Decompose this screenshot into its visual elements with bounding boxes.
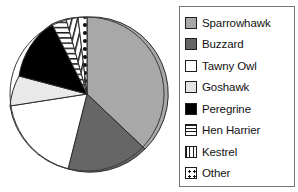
legend-swatch-hen-harrier-icon — [185, 124, 197, 136]
legend-label-tawny-owl: Tawny Owl — [202, 60, 257, 72]
legend-swatch-other-icon — [185, 167, 197, 179]
legend-swatch-peregrine-icon — [185, 103, 197, 115]
pie-chart-plot-area — [2, 6, 178, 186]
legend-label-other: Other — [202, 167, 230, 179]
legend-item-tawny-owl: Tawny Owl — [185, 55, 294, 77]
legend-item-goshawk: Goshawk — [185, 77, 294, 99]
legend-label-goshawk: Goshawk — [202, 81, 249, 93]
legend-label-kestrel: Kestrel — [202, 146, 237, 158]
legend-swatch-tawny-owl-icon — [185, 60, 197, 72]
legend-swatch-kestrel-icon — [185, 146, 197, 158]
legend-swatch-sparrowhawk-icon — [185, 17, 197, 29]
pie-chart-figure: Sparrowhawk Buzzard Tawny Owl Goshawk Pe… — [0, 0, 298, 192]
pie-slices — [10, 17, 168, 172]
legend-label-peregrine: Peregrine — [202, 103, 251, 115]
legend-swatch-buzzard-icon — [185, 38, 197, 50]
pie-chart-svg — [2, 6, 178, 186]
legend-label-hen-harrier: Hen Harrier — [202, 124, 260, 136]
legend-item-peregrine: Peregrine — [185, 98, 294, 120]
legend-swatch-goshawk-icon — [185, 81, 197, 93]
legend-item-hen-harrier: Hen Harrier — [185, 120, 294, 142]
legend-label-buzzard: Buzzard — [202, 38, 244, 50]
legend-item-other: Other — [185, 163, 294, 185]
chart-legend: Sparrowhawk Buzzard Tawny Owl Goshawk Pe… — [179, 6, 295, 187]
legend-label-sparrowhawk: Sparrowhawk — [202, 17, 271, 29]
legend-item-kestrel: Kestrel — [185, 141, 294, 163]
legend-item-sparrowhawk: Sparrowhawk — [185, 12, 294, 34]
legend-item-buzzard: Buzzard — [185, 34, 294, 56]
